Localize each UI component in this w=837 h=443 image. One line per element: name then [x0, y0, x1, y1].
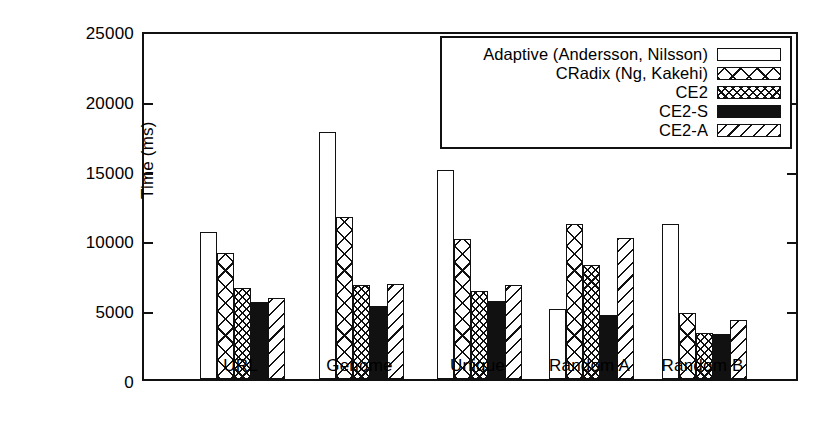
x-tick-label: URL [181, 356, 301, 376]
y-tick-label: 15000 [6, 165, 134, 182]
legend-item-label: Adaptive (Andersson, Nilsson) [483, 46, 717, 63]
y-tick-label: 0 [6, 374, 134, 391]
y-tick-label: 25000 [6, 25, 134, 42]
x-tick-label: Random B [643, 356, 763, 376]
legend-item-label: CRadix (Ng, Kakehi) [556, 65, 717, 82]
plain-swatch-icon [717, 48, 781, 61]
legend: Adaptive (Andersson, Nilsson) CRadix (Ng… [440, 36, 792, 149]
solid-swatch-icon [717, 105, 781, 118]
cross-hatch-fine-swatch-icon [717, 86, 781, 99]
y-tick-label: 20000 [6, 95, 134, 112]
legend-item[interactable]: CRadix (Ng, Kakehi) [452, 64, 781, 83]
legend-item-label: CE2-A [659, 122, 717, 139]
cross-hatch-large-swatch-icon [717, 67, 781, 80]
plot-frame: Time (ms) 25000 20000 15000 10000 [142, 32, 798, 381]
legend-item[interactable]: Adaptive (Andersson, Nilsson) [452, 45, 781, 64]
x-tick-label: Unique [418, 356, 538, 376]
legend-item[interactable]: CE2 [452, 83, 781, 102]
bar[interactable] [336, 217, 353, 379]
legend-item[interactable]: CE2-A [452, 121, 781, 140]
diagonal-swatch-icon [717, 124, 781, 137]
bar[interactable] [437, 170, 454, 379]
bar-group [319, 34, 404, 379]
legend-item-label: CE2-S [659, 103, 717, 120]
y-tick-label: 10000 [6, 234, 134, 251]
bar-chart-figure: Time (ms) 25000 20000 15000 10000 [0, 0, 837, 443]
legend-item[interactable]: CE2-S [452, 102, 781, 121]
x-tick-label: Genome [300, 356, 420, 376]
bar[interactable] [319, 132, 336, 379]
bar-group [200, 34, 285, 379]
legend-item-label: CE2 [676, 84, 717, 101]
y-tick-label: 5000 [6, 304, 134, 321]
x-tick-label: Random A [530, 356, 650, 376]
